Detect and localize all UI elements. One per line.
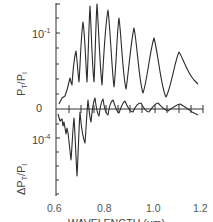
- ytick-zero: 0: [36, 102, 42, 114]
- x-axis-label: WAVELENGTH (μm): [68, 218, 165, 222]
- ytick-label-upper: 10-1: [32, 27, 50, 40]
- label-sub: I: [21, 164, 28, 166]
- xtick-label-2: 1.0: [146, 203, 161, 214]
- upper-y-axis-label: PT/PI: [16, 72, 28, 96]
- series-transmission: [59, 4, 198, 104]
- label-sub: T: [21, 84, 28, 88]
- ytick-exp: -4: [44, 133, 50, 140]
- label-part: ΔP: [15, 180, 27, 195]
- label-part: /P: [15, 74, 27, 84]
- ytick-base: 10: [32, 28, 44, 40]
- ytick-base: 10: [32, 134, 44, 146]
- y-ticks-upper: [56, 4, 60, 94]
- label-sub: I: [21, 72, 28, 74]
- xtick-label-3: 1.2: [193, 203, 208, 214]
- ytick-exp: -1: [44, 27, 50, 34]
- series-differential: [58, 98, 198, 176]
- lower-y-axis-label: ΔPT/PI: [16, 164, 28, 195]
- ytick-label-lower: 10-4: [32, 133, 50, 146]
- label-part: /P: [15, 166, 27, 176]
- label-part: P: [15, 89, 27, 96]
- xtick-label-0: 0.6: [47, 203, 62, 214]
- ytick-label-zero: 0: [36, 103, 42, 114]
- label-sub: T: [21, 176, 28, 180]
- xtick-label-1: 0.8: [97, 203, 112, 214]
- y-ticks-lower: [56, 124, 60, 194]
